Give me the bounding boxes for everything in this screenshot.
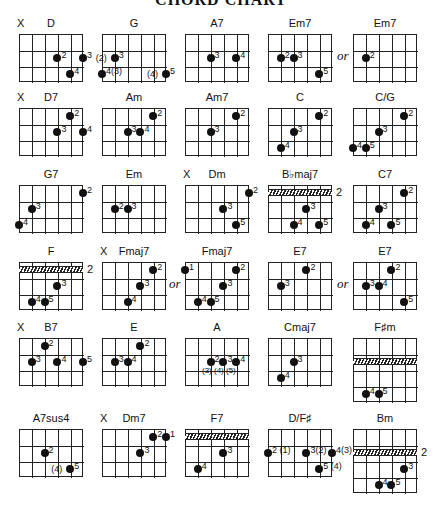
fret-line (186, 279, 250, 280)
fret-line (354, 67, 418, 68)
fret-line (354, 446, 418, 447)
chord-name: E (102, 321, 166, 333)
finger-dot (277, 374, 285, 382)
fret-line (186, 462, 250, 463)
finger-dot (124, 298, 132, 306)
finger-dot (277, 144, 285, 152)
chord-diagram: E7or2345 (353, 262, 417, 310)
string-line (58, 186, 59, 234)
chord-diagram: Cmaj734 (268, 338, 332, 386)
finger-number: 3 (144, 278, 149, 288)
fret-line (269, 295, 333, 296)
finger-number: 3 (310, 201, 315, 211)
finger-dot (264, 449, 272, 457)
finger-dot (277, 54, 285, 62)
barre-bar (353, 449, 417, 456)
fret-line (354, 218, 418, 219)
finger-number: 5 (323, 66, 328, 76)
finger-dot (111, 54, 119, 62)
chord-diagram: A234(3) (4) (5) (185, 338, 249, 386)
finger-number: 4 (285, 370, 290, 380)
finger-number: 5 (370, 140, 375, 150)
chord-name: C7 (353, 168, 417, 180)
finger-number: 5 (74, 461, 79, 471)
finger-number: 5 (87, 354, 92, 364)
finger-dot (375, 282, 383, 290)
chord-diagram: D7X234 (19, 108, 83, 156)
muted-string-marker: X (17, 17, 24, 29)
finger-number: 2 (310, 262, 315, 272)
finger-number: 3 (227, 445, 232, 455)
fret-line (354, 371, 418, 372)
finger-number: 4 (87, 124, 92, 134)
chord-diagram: F♯m45 (353, 338, 417, 402)
chord-name: G (102, 17, 166, 29)
finger-dot (124, 205, 132, 213)
fret-line (103, 218, 167, 219)
finger-number: 5 (4) (323, 461, 342, 471)
fret-line (269, 279, 333, 280)
string-line (32, 430, 33, 478)
finger-number: 2 (157, 108, 162, 118)
finger-number: 4(3) (106, 66, 122, 76)
fret-line (20, 141, 84, 142)
finger-dot (375, 128, 383, 136)
finger-number: 2 (240, 108, 245, 118)
chord-name: D7 (19, 91, 83, 103)
fret-line (20, 125, 84, 126)
fret-line (20, 218, 84, 219)
barre-bar (19, 266, 83, 273)
or-label: or (337, 48, 349, 64)
finger-dot (79, 189, 87, 197)
fret-line (186, 446, 250, 447)
finger-number: 5 (170, 66, 175, 76)
finger-number: 2 (61, 50, 66, 60)
string-line (198, 339, 199, 387)
finger-number: 2 (240, 262, 245, 272)
chord-name: A (185, 321, 249, 333)
finger-dot (194, 465, 202, 473)
or-label: or (337, 276, 349, 292)
finger-number: 3 (227, 278, 232, 288)
chord-diagram: D/F♯2 (1)3(2)4(3)5 (4) (268, 429, 332, 477)
finger-number: 3 (87, 50, 92, 60)
chord-diagram: Em23 (102, 185, 166, 233)
finger-dot (15, 221, 23, 229)
finger-number: 2 (408, 108, 413, 118)
finger-number: 5 (395, 477, 400, 487)
finger-number: 5 (383, 386, 388, 396)
finger-dot (207, 298, 215, 306)
chord-name: A7 (185, 17, 249, 29)
finger-number: 5 (240, 217, 245, 227)
finger-number: 4(3) (336, 445, 352, 455)
finger-number: 3 (215, 50, 220, 60)
finger-dot (28, 298, 36, 306)
finger-number: 4 (298, 217, 303, 227)
chord-diagram: C234 (268, 108, 332, 156)
string-line (307, 109, 308, 157)
finger-number: 3 (61, 278, 66, 288)
chord-name: E7 (353, 245, 417, 257)
fret-line (103, 371, 167, 372)
chord-name: Dm7 (102, 412, 166, 424)
alt-finger-number: (4) (51, 464, 62, 474)
chord-name: Fmaj7 (185, 245, 249, 257)
chord-diagram: E234 (102, 338, 166, 386)
page-title: CHORD CHART (0, 0, 442, 9)
finger-dot (194, 298, 202, 306)
finger-number: 3 (215, 124, 220, 134)
fret-line (354, 355, 418, 356)
finger-dot (28, 358, 36, 366)
chord-diagram: DmX235 (185, 185, 249, 233)
finger-number: 3 (408, 461, 413, 471)
fret-line (20, 371, 84, 372)
barre-bar (353, 358, 417, 365)
chord-diagram: Em7or2 (353, 34, 417, 82)
finger-number: 5 (323, 217, 328, 227)
finger-dot (41, 298, 49, 306)
finger-number: 5 (395, 217, 400, 227)
string-line (128, 35, 129, 83)
barre-bar (268, 189, 332, 196)
chord-diagram: Bm2345 (353, 429, 417, 493)
string-line (154, 186, 155, 234)
